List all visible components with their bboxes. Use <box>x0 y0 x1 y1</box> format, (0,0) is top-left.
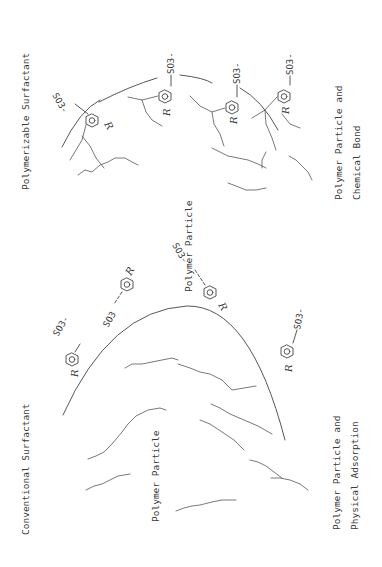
polymer-chain <box>125 358 178 368</box>
polymer-chain <box>176 500 236 511</box>
polymer-chain <box>271 478 308 490</box>
sulfonate-head: SO3- <box>232 62 242 84</box>
benzene-ring-icon <box>281 345 293 358</box>
r-group-label: R <box>228 116 239 125</box>
sulfonate-head: SO3- <box>51 314 71 338</box>
polymer-chain <box>86 474 130 490</box>
title-polymerizable: Polymerizable Surfactant <box>20 53 31 190</box>
panel-polymerizable: Polymerizable Surfactant SO3- R SO3- R <box>20 52 362 292</box>
benzene-ring-icon <box>121 278 133 291</box>
surfactant-free-3: SO3- R <box>170 241 230 313</box>
polymer-chain <box>211 404 272 434</box>
polymer-chain <box>250 460 282 478</box>
sulfonate-head: SO3- <box>285 53 295 75</box>
sulfonate-head: SO3- <box>166 52 176 74</box>
polymer-chain <box>262 152 266 168</box>
surfactant-diagram: Polymerizable Surfactant SO3- R SO3- R <box>0 0 382 567</box>
r-group-label: R <box>123 265 137 278</box>
particle-surface-arc <box>63 306 285 440</box>
r-group-label: R <box>216 300 230 313</box>
particle-label-polymerizable: Polymer Particle <box>183 200 194 292</box>
sulfonate-head: SO3- <box>50 91 70 115</box>
benzene-ring-icon <box>226 101 238 114</box>
sulfonate-head: SO3 <box>101 310 118 329</box>
polymer-chain <box>178 364 256 390</box>
benzene-ring-icon <box>278 90 290 103</box>
polymer-chain <box>200 420 244 450</box>
caption-conventional-line2: Physical Adsorption <box>349 421 360 530</box>
r-group-label: R <box>69 369 80 378</box>
caption-conventional-line1: Polymer Particle and <box>331 416 342 530</box>
polymer-chain <box>228 183 266 190</box>
surfactant-bonded-1: SO3- R <box>50 91 116 168</box>
r-group-label: R <box>102 119 116 132</box>
particle-surface-arc <box>180 75 212 83</box>
caption-polymerizable-line1: Polymer Particle and <box>333 86 344 200</box>
polymer-chain <box>212 148 266 168</box>
benzene-ring-icon <box>66 353 78 366</box>
r-group-label: R <box>161 108 172 117</box>
surfactant-free-1: SO3- R <box>51 314 80 378</box>
sulfonate-head: SO3- <box>292 307 306 330</box>
polymer-chain <box>289 156 312 180</box>
benzene-ring-icon <box>159 90 171 103</box>
caption-polymerizable-line2: Chemical Bond <box>351 126 362 200</box>
r-group-label: R <box>283 364 294 373</box>
r-group-label: R <box>280 106 291 115</box>
surfactant-adsorbed-4: SO3- R <box>281 307 306 373</box>
title-conventional: Conventional Surfactant <box>20 403 31 535</box>
particle-surface-arc <box>240 88 278 130</box>
benzene-ring-icon <box>204 286 216 299</box>
surfactant-bonded-4: SO3- R <box>252 53 300 150</box>
surfactant-bonded-2: SO3- R <box>128 52 176 126</box>
surfactant-bonded-3: SO3- R <box>190 62 242 146</box>
polymer-chain <box>78 158 138 175</box>
surfactant-free-2: SO3 R <box>101 265 137 329</box>
benzene-ring-icon <box>86 114 98 127</box>
particle-label-conventional: Polymer Particle <box>150 430 161 522</box>
